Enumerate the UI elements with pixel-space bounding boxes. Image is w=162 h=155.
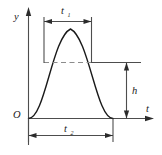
t1-left-arrowhead (44, 19, 52, 24)
t2-label: t (64, 123, 68, 134)
t2-right-arrowhead (105, 133, 113, 138)
h-label: h (132, 85, 137, 96)
axes-group (26, 7, 154, 145)
t-axis-arrowhead (145, 116, 154, 121)
t1-label-group: t 1 (61, 5, 71, 18)
t2-label-subscript: 2 (71, 130, 74, 136)
h-top-arrowhead (124, 63, 129, 71)
y-axis-arrowhead (26, 7, 31, 16)
trajectory-curve (29, 29, 114, 119)
t1-label-subscript: 1 (68, 12, 71, 18)
t1-dimension-group (44, 17, 92, 63)
t2-left-arrowhead (29, 133, 37, 138)
figure-container: y t O t 1 t 2 h (0, 0, 162, 155)
t-axis-label: t (146, 103, 150, 114)
h-bottom-arrowhead (124, 111, 129, 119)
t2-label-group: t 2 (64, 123, 74, 136)
h-dimension-group (124, 63, 129, 119)
physics-trajectory-diagram: y t O t 1 t 2 h (0, 0, 162, 155)
trajectory-curve-group (29, 29, 114, 119)
t1-label: t (61, 5, 65, 16)
origin-label: O (13, 109, 21, 120)
t1-right-arrowhead (84, 19, 92, 24)
y-axis-label: y (13, 11, 19, 22)
